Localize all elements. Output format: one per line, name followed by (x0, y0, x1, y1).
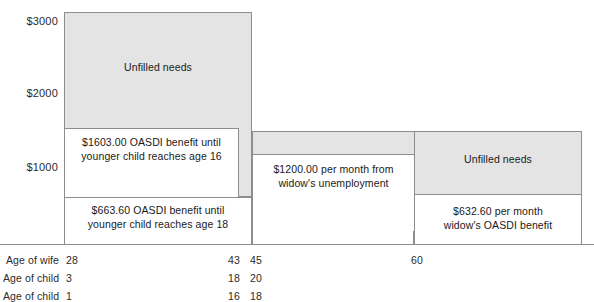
block-widow-unemployment: $1200.00 per month from widow's unemploy… (252, 154, 415, 245)
age-of-child-older-value-3: 3 (66, 272, 72, 284)
block-label-oasdi-663: $663.60 OASDI benefit until younger chil… (65, 204, 251, 231)
block-oasdi-1603: $1603.00 OASDI benefit until younger chi… (64, 128, 239, 198)
block-oasdi-663: $663.60 OASDI benefit until younger chil… (64, 197, 252, 245)
age-of-wife-value-28: 28 (66, 254, 78, 266)
block-label-unfilled-needs-right: Unfilled needs (415, 153, 581, 167)
block-label-widow-oasdi: $632.60 per month widow's OASDI benefit (415, 205, 581, 232)
row-label-age-of-child-younger: Age of child (3, 290, 59, 302)
age-of-wife-value-45: 45 (250, 254, 262, 266)
block-unfilled-needs-left: Unfilled needs (64, 12, 252, 129)
x-axis-tick-60 (413, 231, 414, 245)
age-of-child-younger-value-1: 1 (66, 290, 72, 302)
age-of-child-older-value-18: 18 (228, 272, 240, 284)
y-axis-label-3000: $3000 (4, 15, 58, 27)
row-label-age-of-wife: Age of wife (6, 254, 59, 266)
age-of-wife-value-60: 60 (411, 254, 423, 266)
block-label-widow-unemployment: $1200.00 per month from widow's unemploy… (253, 163, 414, 190)
x-axis-tick-45 (252, 231, 253, 245)
block-widow-oasdi: $632.60 per month widow's OASDI benefit (414, 194, 582, 245)
row-label-age-of-child-older: Age of child (3, 272, 59, 284)
block-label-oasdi-1603: $1603.00 OASDI benefit until younger chi… (65, 136, 238, 163)
y-axis-label-1000: $1000 (4, 161, 58, 173)
benefit-gap-chart: $3000 $2000 $1000 Unfilled needs $1603.0… (0, 0, 594, 302)
y-axis-label-2000: $2000 (4, 87, 58, 99)
block-gray-connector-left (238, 128, 252, 197)
age-of-wife-value-43: 43 (228, 254, 240, 266)
age-of-child-older-value-20: 20 (250, 272, 262, 284)
x-axis-baseline (0, 244, 594, 245)
block-label-unfilled-needs-left: Unfilled needs (65, 61, 251, 75)
age-of-child-younger-value-18: 18 (250, 290, 262, 302)
age-of-child-younger-value-16: 16 (228, 290, 240, 302)
block-unfilled-needs-right: Unfilled needs (414, 131, 582, 195)
